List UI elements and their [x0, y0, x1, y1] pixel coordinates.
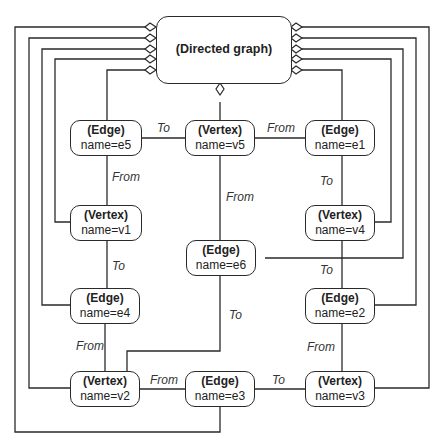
- aggregation-diamond-icon: [291, 34, 302, 42]
- edge-node-e3[interactable]: (Edge) name=e3: [185, 371, 255, 407]
- node-type: (Directed graph): [176, 42, 273, 58]
- node-name: name=v5: [195, 138, 245, 153]
- vertex-node-v1[interactable]: (Vertex) name=v1: [70, 205, 142, 241]
- relation-label: From: [267, 121, 295, 135]
- node-type: (Vertex): [318, 208, 362, 223]
- node-type: (Vertex): [84, 208, 128, 223]
- node-name: name=v2: [80, 389, 130, 404]
- node-type: (Vertex): [318, 374, 362, 389]
- aggregation-diamond-icon: [145, 34, 156, 42]
- node-type: (Vertex): [83, 374, 127, 389]
- edge-node-e6[interactable]: (Edge) name=e6: [186, 240, 256, 276]
- vertex-node-v2[interactable]: (Vertex) name=v2: [70, 371, 140, 407]
- edge-node-e5[interactable]: (Edge) name=e5: [70, 120, 142, 156]
- node-name: name=v1: [81, 223, 131, 238]
- node-name: name=e3: [195, 389, 245, 404]
- composition-line-e2: [292, 38, 416, 305]
- node-name: name=v4: [315, 223, 365, 238]
- relation-label: To: [320, 263, 333, 277]
- aggregation-diamond-icon: [291, 45, 302, 53]
- vertex-node-v3[interactable]: (Vertex) name=v3: [305, 371, 375, 407]
- node-name: name=e2: [315, 306, 365, 321]
- node-type: (Vertex): [198, 123, 242, 138]
- relation-label: From: [226, 190, 254, 204]
- composition-line-e5: [107, 70, 155, 120]
- aggregation-diamond-icon: [145, 23, 156, 31]
- composition-line-e1: [292, 70, 342, 120]
- relation-label: From: [76, 339, 104, 353]
- node-type: (Edge): [202, 243, 239, 258]
- vertex-node-v5[interactable]: (Vertex) name=v5: [185, 120, 255, 156]
- edge-node-e4[interactable]: (Edge) name=e4: [70, 288, 140, 324]
- aggregation-diamond-icon: [291, 66, 302, 74]
- vertex-node-v4[interactable]: (Vertex) name=v4: [305, 205, 375, 241]
- relation-label: To: [320, 174, 333, 188]
- node-name: name=e1: [315, 138, 365, 153]
- edge-node-e2[interactable]: (Edge) name=e2: [305, 288, 375, 324]
- node-name: name=e6: [196, 258, 246, 273]
- relation-label: From: [307, 340, 335, 354]
- relation-label: From: [112, 170, 140, 184]
- aggregation-diamond-icon: [291, 55, 302, 63]
- node-name: name=e4: [80, 306, 130, 321]
- relation-label: To: [157, 121, 170, 135]
- relation-label: To: [112, 259, 125, 273]
- node-type: (Edge): [321, 291, 358, 306]
- aggregation-diamond-icon: [291, 23, 302, 31]
- aggregation-diamond-icon: [145, 55, 156, 63]
- directed-graph-node[interactable]: (Directed graph): [156, 16, 292, 84]
- aggregation-diamond-icon: [145, 66, 156, 74]
- node-name: name=v3: [315, 389, 365, 404]
- relation-label: From: [150, 373, 178, 387]
- edge-node-e1[interactable]: (Edge) name=e1: [305, 120, 375, 156]
- aggregation-diamond-icon: [216, 83, 224, 95]
- aggregation-diamond-icon: [145, 45, 156, 53]
- node-type: (Edge): [86, 291, 123, 306]
- relation-label: To: [229, 308, 242, 322]
- node-type: (Edge): [201, 374, 238, 389]
- node-name: name=e5: [81, 138, 131, 153]
- node-type: (Edge): [321, 123, 358, 138]
- relation-label: To: [272, 373, 285, 387]
- node-type: (Edge): [87, 123, 124, 138]
